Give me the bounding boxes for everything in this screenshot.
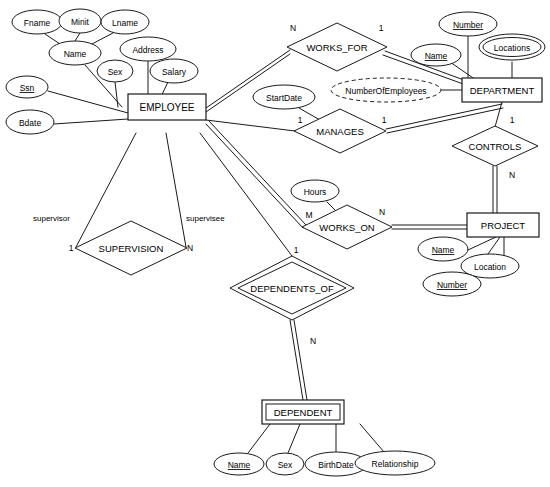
attribute-sex[interactable]: Sex bbox=[97, 60, 133, 82]
cardinality-works-on-project: N bbox=[379, 207, 385, 217]
department-name-label: Name bbox=[425, 51, 448, 61]
fname-label: Fname bbox=[24, 18, 51, 28]
entity-project[interactable]: PROJECT bbox=[467, 213, 539, 237]
project-name-label: Name bbox=[432, 245, 455, 255]
attribute-employee-name[interactable]: Name bbox=[49, 41, 101, 65]
attribute-startdate[interactable]: StartDate bbox=[253, 85, 315, 109]
works-for-label: WORKS_FOR bbox=[306, 42, 367, 53]
address-label: Address bbox=[132, 45, 163, 55]
attribute-dependent-relationship[interactable]: Relationship bbox=[355, 451, 435, 475]
role-label-supervisee: supervisee bbox=[186, 214, 225, 223]
cardinality-works-for-department: 1 bbox=[379, 23, 384, 33]
cardinality-controls-project: N bbox=[509, 170, 515, 180]
manages-label: MANAGES bbox=[316, 126, 364, 137]
department-number-label: Number bbox=[453, 20, 483, 30]
attribute-ssn[interactable]: Ssn bbox=[6, 76, 48, 98]
attribute-dependent-name[interactable]: Name bbox=[214, 453, 264, 475]
cardinality-dependents-of-dependent: N bbox=[310, 336, 316, 346]
project-location-label: Location bbox=[474, 262, 506, 272]
attribute-project-number[interactable]: Number bbox=[423, 272, 481, 296]
employee-name-label: Name bbox=[64, 49, 87, 59]
cardinality-supervision-supervisee: N bbox=[187, 243, 193, 253]
project-number-label: Number bbox=[437, 280, 467, 290]
dependent-name-label: Name bbox=[228, 460, 251, 470]
attribute-salary[interactable]: Salary bbox=[150, 59, 198, 83]
attribute-department-number[interactable]: Number bbox=[439, 12, 497, 36]
attribute-dependent-sex[interactable]: Sex bbox=[266, 453, 304, 475]
attribute-minit[interactable]: Minit bbox=[59, 9, 101, 33]
cardinality-dependents-of-employee: 1 bbox=[294, 245, 299, 255]
works-on-label: WORKS_ON bbox=[319, 222, 375, 233]
number-of-employees-label: NumberOfEmployees bbox=[345, 86, 426, 96]
entity-department[interactable]: DEPARTMENT bbox=[462, 78, 542, 102]
attribute-address[interactable]: Address bbox=[120, 37, 176, 61]
startdate-label: StartDate bbox=[266, 93, 302, 103]
department-label: DEPARTMENT bbox=[470, 85, 535, 96]
lname-label: Lname bbox=[112, 18, 138, 28]
cardinality-works-on-employee: M bbox=[305, 210, 312, 220]
dependent-birthdate-label: BirthDate bbox=[318, 460, 354, 470]
entity-dependent[interactable]: DEPENDENT bbox=[262, 400, 344, 424]
minit-label: Minit bbox=[71, 17, 90, 27]
cardinality-works-for-employee: N bbox=[290, 23, 296, 33]
attribute-locations[interactable]: Locations bbox=[479, 34, 545, 60]
attribute-lname[interactable]: Lname bbox=[101, 10, 149, 34]
bdate-label: Bdate bbox=[19, 118, 41, 128]
supervision-label: SUPERVISION bbox=[99, 243, 164, 254]
dependent-relationship-label: Relationship bbox=[372, 459, 419, 469]
role-label-supervisor: supervisor bbox=[33, 214, 70, 223]
attribute-project-name[interactable]: Name bbox=[418, 237, 468, 261]
cardinality-manages-department: 1 bbox=[382, 115, 387, 125]
cardinality-manages-employee: 1 bbox=[298, 115, 303, 125]
ssn-label: Ssn bbox=[20, 83, 35, 93]
locations-label: Locations bbox=[494, 43, 530, 53]
attribute-bdate[interactable]: Bdate bbox=[6, 110, 54, 134]
hours-label: Hours bbox=[304, 187, 327, 197]
dependents-of-label: DEPENDENTS_OF bbox=[250, 283, 334, 294]
er-diagram-canvas: WORKS_FOR MANAGES CONTROLS WORKS_ON SUPE… bbox=[0, 0, 550, 487]
entity-employee[interactable]: EMPLOYEE bbox=[128, 94, 206, 120]
controls-label: CONTROLS bbox=[469, 141, 522, 152]
sex-label: Sex bbox=[108, 67, 123, 77]
attribute-number-of-employees[interactable]: NumberOfEmployees bbox=[331, 78, 441, 102]
cardinality-controls-department: 1 bbox=[510, 115, 515, 125]
attribute-fname[interactable]: Fname bbox=[12, 10, 62, 34]
attribute-department-name[interactable]: Name bbox=[411, 44, 461, 66]
project-label: PROJECT bbox=[481, 220, 526, 231]
attribute-hours[interactable]: Hours bbox=[291, 180, 339, 202]
cardinality-supervision-supervisor: 1 bbox=[69, 243, 74, 253]
dependent-label: DEPENDENT bbox=[274, 407, 333, 418]
dependent-sex-label: Sex bbox=[278, 460, 293, 470]
employee-label: EMPLOYEE bbox=[139, 102, 194, 113]
salary-label: Salary bbox=[162, 67, 187, 77]
